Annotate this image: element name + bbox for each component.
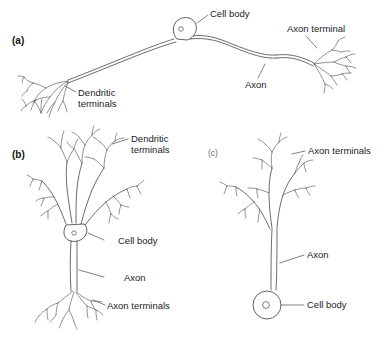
panel-b-cell-body (64, 224, 87, 241)
panel-c-cell-body (253, 291, 281, 319)
panel-c-label-cell-body: Cell body (307, 299, 347, 310)
panel-a-dendritic-tree (18, 76, 68, 117)
panel-a-leader-axon-terminal (306, 36, 317, 48)
panel-c-leader-axon-terminals (292, 151, 305, 154)
panel-c-label-axon: Axon (307, 249, 329, 260)
panel-b-label-cell-body: Cell body (118, 235, 158, 246)
panel-b-axon-terminal-tree (35, 291, 103, 329)
panel-c-axon-shaft (271, 229, 277, 290)
panel-c: (c) Axon terminals Axon Cell body (208, 133, 371, 319)
panel-b-axon-shaft (70, 241, 77, 291)
panel-b-label-axon: Axon (124, 272, 146, 283)
panel-c-axon-terminal-tree (220, 133, 315, 229)
panel-b-label-dendritic-terminals-line2: terminals (131, 144, 170, 155)
panel-a-axon-shaft (68, 35, 314, 83)
panel-a-label-cell-body: Cell body (210, 8, 250, 19)
panel-a-leader-dendritic (65, 86, 76, 92)
panel-a-label-axon-terminal: Axon terminal (287, 23, 345, 34)
panel-a-cell-body (173, 18, 196, 40)
neuron-figure: (a) Cell body Axon terminal Axon Dendrit… (0, 0, 384, 337)
panel-b-leader-axon-terminals (93, 300, 105, 305)
panel-a-leader-cell-body (197, 15, 208, 23)
panel-a-label-axon: Axon (245, 79, 267, 90)
panel-a-axon-terminal-tree (314, 37, 356, 93)
panel-b-leader-cell-body (88, 233, 104, 240)
panel-b: (b) Dendritic terminals Cell body Axon A… (12, 126, 170, 329)
panel-a-leader-axon (258, 64, 265, 78)
panel-b-leader-axon (79, 270, 104, 277)
panel-b-label-axon-terminals: Axon terminals (107, 300, 170, 311)
panel-c-leader-axon (280, 255, 304, 263)
panel-c-id: (c) (208, 148, 218, 158)
panel-b-dendritic-tree (27, 126, 144, 225)
panel-a-label-dendritic-terminals-line2: terminals (78, 98, 117, 109)
panel-a-label-dendritic-terminals-line1: Dendritic (78, 87, 116, 98)
panel-b-id: (b) (12, 149, 25, 160)
panel-c-label-axon-terminals: Axon terminals (308, 145, 371, 156)
neuron-diagram-canvas: (a) Cell body Axon terminal Axon Dendrit… (0, 0, 384, 337)
panel-a-id: (a) (12, 35, 24, 46)
panel-b-label-dendritic-terminals-line1: Dendritic (131, 133, 169, 144)
panel-a: (a) Cell body Axon terminal Axon Dendrit… (12, 8, 356, 117)
